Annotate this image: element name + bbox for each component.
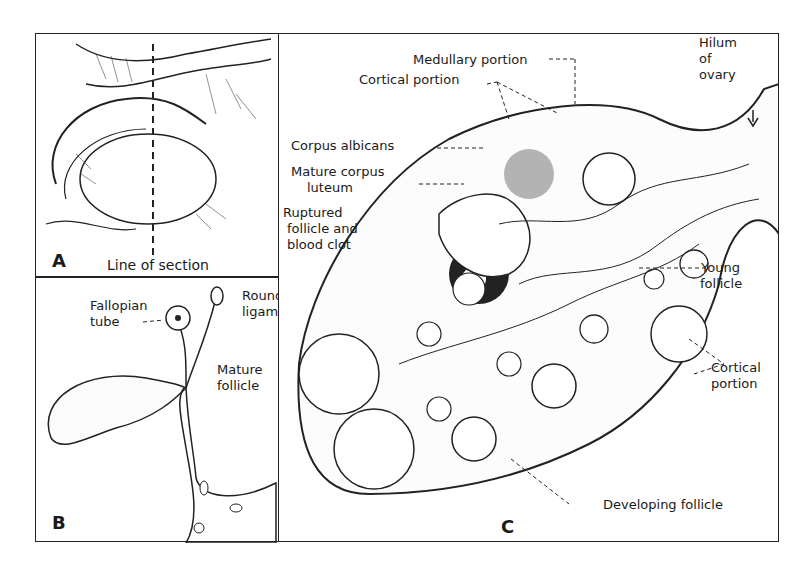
label-hilum-line1: Hilum [699,35,737,50]
panel-a-ovary-external-view: A Line of section [35,33,279,277]
label-young-follicle-line1: Young [701,260,740,275]
label-hilum-line2: of [699,51,712,66]
label-corpus-albicans: Corpus albicans [291,138,394,153]
ovary-external-illustration [36,34,280,278]
label-mature-corpus-luteum-line2: luteum [307,180,353,195]
panel-letter: C [501,516,514,537]
label-cortical-portion-right-line1: Cortical [711,360,761,375]
label-ruptured-follicle-line2: follicle and [287,221,358,236]
panel-letter: A [52,250,66,271]
label-hilum-line3: ovary [699,67,736,82]
label-fallopian-tube-line1: Fallopian [90,298,148,313]
label-young-follicle-line2: follicle [700,276,742,291]
panel-b-broad-ligament-section: Fallopian tube Round ligament B [35,277,279,542]
label-round-ligament-line1: Round [242,288,283,303]
panel-letter: B [52,512,66,533]
label-fallopian-tube-line2: tube [90,314,120,329]
label-mature-follicle-line2: follicle [217,378,259,393]
label-developing-follicle: Developing follicle [603,497,723,512]
label-mature-follicle-line1: Mature [217,362,263,377]
label-medullary-portion: Medullary portion [413,52,528,67]
label-cortical-portion-top: Cortical portion [359,72,459,87]
label-mature-corpus-luteum-line1: Mature corpus [291,164,384,179]
label-ruptured-follicle-line3: blood clot [287,237,351,252]
label-ruptured-follicle-line1: Ruptured [283,205,343,220]
panel-c-ovary-cross-section: Medullary portion Cortical portion Hilum… [279,33,779,542]
label-cortical-portion-right-line2: portion [711,376,757,391]
label-line-of-section: Line of section [107,258,209,273]
